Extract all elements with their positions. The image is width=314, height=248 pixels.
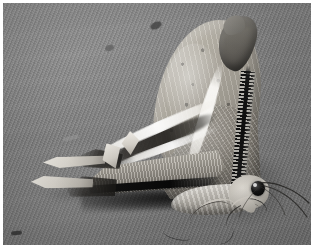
photograph-frame <box>0 0 314 248</box>
photo-vignette <box>3 3 311 245</box>
photograph-canvas <box>3 3 311 245</box>
